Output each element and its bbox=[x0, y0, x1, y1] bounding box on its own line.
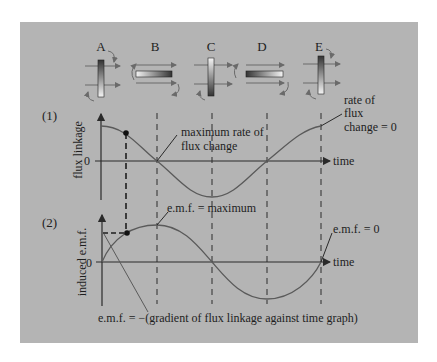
coil-bar-icon bbox=[136, 71, 172, 77]
coil-label-b: B bbox=[151, 39, 160, 54]
coil-bar-icon bbox=[246, 71, 283, 77]
coil-label-e: E bbox=[315, 39, 323, 54]
pointer-max-rate bbox=[157, 135, 177, 161]
graph2-number: (2) bbox=[42, 215, 57, 230]
tangent-point-dot bbox=[123, 130, 129, 136]
rotation-arrow-icon bbox=[309, 90, 316, 99]
pointer-emf-zero bbox=[321, 233, 332, 262]
graph2-zero: 0 bbox=[86, 256, 92, 270]
rotation-arrow-icon bbox=[200, 91, 205, 100]
rotation-arrow-icon bbox=[326, 49, 331, 58]
annotation-emf-max: e.m.f. = maximum bbox=[167, 201, 257, 215]
coil-bar-icon bbox=[318, 56, 324, 94]
graph1-xlabel: time bbox=[333, 154, 354, 168]
rotation-arrow-icon bbox=[234, 64, 238, 78]
flux-emf-diagram: A B C D E bbox=[0, 0, 437, 362]
rotation-arrow-icon bbox=[172, 84, 179, 95]
coil-b: B bbox=[132, 39, 179, 95]
annotation-emf-zero: e.m.f. = 0 bbox=[333, 222, 379, 236]
pointer-zero-rate bbox=[321, 114, 342, 126]
coil-label-a: A bbox=[96, 39, 106, 54]
graph1-ylabel: flux linkage bbox=[71, 121, 85, 179]
rotation-arrow-icon bbox=[132, 64, 136, 80]
coil-bar-icon bbox=[208, 58, 214, 96]
caption-pointer bbox=[104, 234, 148, 312]
annotation-zero-rate-3: change = 0 bbox=[344, 120, 397, 134]
annotation-zero-rate-2: flux bbox=[344, 106, 363, 120]
annotation-max-rate-1: maximum rate of bbox=[181, 125, 264, 139]
coil-label-c: C bbox=[207, 39, 216, 54]
coil-label-d: D bbox=[257, 39, 266, 54]
graph-flux-linkage: (1) flux linkage 0 time maximum rate of … bbox=[42, 93, 397, 200]
coil-e: E bbox=[303, 39, 340, 99]
emf-point-dot bbox=[124, 230, 130, 236]
annotation-max-rate-2: flux change bbox=[181, 139, 237, 153]
coil-bar-icon bbox=[98, 60, 104, 97]
rotation-arrow-icon bbox=[108, 51, 114, 62]
graph1-number: (1) bbox=[42, 108, 57, 123]
coil-c: C bbox=[194, 39, 238, 100]
rotation-arrow-icon bbox=[88, 92, 94, 101]
caption-gradient: e.m.f. = −(gradient of flux linkage agai… bbox=[98, 311, 358, 325]
coil-d: D bbox=[246, 39, 288, 94]
annotation-zero-rate-1: rate of bbox=[344, 93, 375, 107]
rotation-arrow-icon bbox=[280, 82, 288, 94]
graph-induced-emf: (2) induced e.m.f. 0 time e.m.f. = maxim… bbox=[42, 201, 379, 325]
coil-a: A bbox=[85, 39, 120, 101]
graph1-zero: 0 bbox=[84, 154, 90, 168]
graph2-xlabel: time bbox=[333, 255, 354, 269]
